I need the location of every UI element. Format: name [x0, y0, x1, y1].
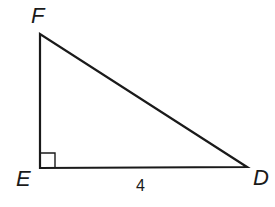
triangle-fed	[40, 34, 247, 168]
right-angle-marker	[40, 153, 55, 168]
vertex-label-d: D	[253, 165, 269, 190]
side-label-ed: 4	[136, 177, 145, 194]
right-triangle-diagram: F E D 4	[0, 0, 275, 207]
vertex-label-f: F	[31, 3, 46, 28]
vertex-label-e: E	[16, 166, 31, 191]
